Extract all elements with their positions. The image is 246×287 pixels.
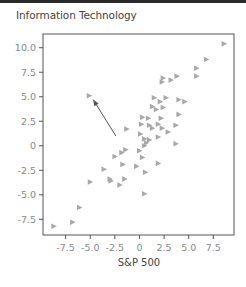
triangle-marker-icon <box>120 162 126 168</box>
triangle-marker-icon <box>156 161 162 167</box>
triangle-marker-icon <box>123 147 129 153</box>
triangle-marker-icon <box>122 176 128 182</box>
triangle-marker-icon <box>137 148 143 154</box>
triangle-marker-icon <box>176 112 182 118</box>
triangle-marker-icon <box>124 126 129 132</box>
x-tick-label: 2.5 <box>157 242 172 253</box>
triangle-marker-icon <box>146 116 152 122</box>
y-tick-label: 5.0 <box>21 91 36 102</box>
y-tick-label: 0 <box>30 140 36 151</box>
triangle-marker-icon <box>70 219 76 225</box>
x-tick-label: -2.5 <box>106 242 125 253</box>
triangle-marker-icon <box>88 179 94 185</box>
triangle-marker-icon <box>117 182 123 188</box>
x-tick-label: -7.5 <box>56 242 75 253</box>
triangle-marker-icon <box>164 95 170 101</box>
y-tick-label: 2.5 <box>21 116 36 127</box>
scatter-chart: 10.07.55.02.50-2.5-5.0-7.5 -7.5-5.0-2.50… <box>0 0 246 287</box>
triangle-marker-icon <box>161 75 167 81</box>
triangle-marker-icon <box>168 77 174 83</box>
triangle-marker-icon <box>156 134 162 140</box>
y-tick-label: -5.0 <box>17 189 36 200</box>
triangle-marker-icon <box>159 116 165 122</box>
x-axis-title: S&P 500 <box>118 257 160 268</box>
triangle-marker-icon <box>154 107 160 113</box>
annotations <box>93 100 116 136</box>
x-tick-label: 5.0 <box>181 242 196 253</box>
triangle-marker-icon <box>204 57 210 63</box>
triangle-marker-icon <box>150 125 156 131</box>
triangle-marker-icon <box>87 93 93 99</box>
y-tick-label: -2.5 <box>17 165 36 176</box>
triangle-marker-icon <box>139 121 145 127</box>
triangle-marker-icon <box>112 154 118 160</box>
data-points <box>51 41 227 229</box>
triangle-marker-icon <box>160 79 166 85</box>
triangle-marker-icon <box>138 131 144 137</box>
arrowhead-icon <box>93 100 98 106</box>
triangle-marker-icon <box>134 164 140 170</box>
y-tick-label: -7.5 <box>17 214 36 225</box>
triangle-marker-icon <box>161 105 167 111</box>
x-tick-label: -5.0 <box>81 242 100 253</box>
y-tick-label: 7.5 <box>21 67 36 78</box>
triangle-marker-icon <box>140 115 146 121</box>
triangle-marker-icon <box>176 97 182 103</box>
y-tick-label: 10.0 <box>15 42 36 53</box>
triangle-marker-icon <box>166 129 172 135</box>
triangle-marker-icon <box>194 73 200 79</box>
x-tick-label: 0 <box>136 242 142 253</box>
triangle-marker-icon <box>222 41 228 47</box>
triangle-marker-icon <box>173 141 179 147</box>
triangle-marker-icon <box>143 169 149 175</box>
triangle-marker-icon <box>140 155 146 161</box>
triangle-marker-icon <box>147 137 153 143</box>
triangle-marker-icon <box>142 191 148 197</box>
triangle-marker-icon <box>77 205 83 211</box>
y-axis: 10.07.55.02.50-2.5-5.0-7.5 <box>15 42 43 225</box>
triangle-marker-icon <box>51 223 57 229</box>
triangle-marker-icon <box>160 125 166 131</box>
triangle-marker-icon <box>102 167 108 173</box>
triangle-marker-icon <box>173 122 179 128</box>
triangle-marker-icon <box>158 99 164 105</box>
triangle-marker-icon <box>182 99 188 105</box>
triangle-marker-icon <box>152 95 158 101</box>
arrow-line <box>93 100 116 136</box>
x-tick-label: 7.5 <box>206 242 221 253</box>
triangle-marker-icon <box>194 66 200 72</box>
x-axis: -7.5-5.0-2.502.55.07.5 <box>56 235 221 253</box>
triangle-marker-icon <box>174 73 180 79</box>
